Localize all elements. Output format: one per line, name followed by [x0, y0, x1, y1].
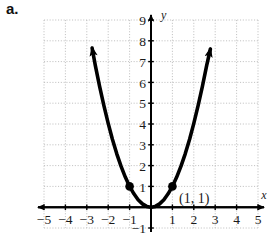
graph-figure: a. — [0, 0, 277, 240]
x-tick-label: 1 — [169, 212, 176, 227]
x-tick-label: −2 — [101, 212, 115, 227]
point-marker — [125, 182, 134, 191]
coordinate-plane: y x −5 −4 −3 −2 −1 1 2 3 4 5 −1 1 2 3 4 … — [0, 0, 277, 240]
x-tick-label: 4 — [233, 212, 240, 227]
y-tick-label: 5 — [139, 96, 146, 111]
point-annotation-label: (1, 1) — [179, 191, 210, 207]
y-tick-label: 1 — [139, 180, 146, 195]
x-tick-label: 2 — [190, 212, 197, 227]
x-tick-label: −4 — [58, 212, 73, 227]
x-tick-label: 5 — [255, 212, 262, 227]
y-tick-label: 4 — [139, 117, 146, 132]
x-tick-label: 3 — [212, 212, 219, 227]
y-tick-label: 8 — [139, 34, 146, 49]
parabola-right-branch — [151, 49, 210, 207]
y-tick-label: 7 — [139, 55, 146, 70]
y-tick-label: 3 — [139, 138, 146, 153]
y-tick-label: 2 — [139, 159, 146, 174]
x-tick-label: −5 — [37, 212, 52, 227]
y-axis-label: y — [160, 8, 167, 22]
x-tick-label: −3 — [80, 212, 95, 227]
point-marker — [168, 182, 177, 191]
y-tick-label: −1 — [132, 221, 146, 236]
x-tick-labels: −5 −4 −3 −2 −1 1 2 3 4 5 — [37, 212, 262, 227]
y-tick-label: 9 — [139, 13, 146, 28]
x-axis-label: x — [260, 188, 267, 202]
y-tick-label: 6 — [139, 76, 146, 91]
